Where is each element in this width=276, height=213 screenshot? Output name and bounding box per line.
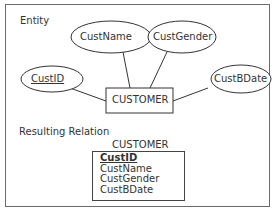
relation-section-label: Resulting Relation <box>19 126 109 137</box>
attribute-custbdate: CustBDate <box>214 73 267 84</box>
entity-name: CUSTOMER <box>112 94 169 105</box>
relation-table: CustID CustName CustGender CustBDate <box>92 151 185 201</box>
relation-field: CustGender <box>100 174 184 185</box>
relation-name: CUSTOMER <box>112 139 169 150</box>
connector-custbdate <box>173 88 208 101</box>
connector-custid <box>70 88 106 101</box>
connector-custgender <box>150 52 167 88</box>
attribute-custgender: CustGender <box>153 31 212 42</box>
entity-section-label: Entity <box>20 15 49 26</box>
relation-field: CustBDate <box>100 185 184 196</box>
relation-field-primary-key: CustID <box>100 153 184 164</box>
attribute-custid-key: CustID <box>31 73 64 84</box>
attribute-custname: CustName <box>80 31 132 42</box>
connector-custname <box>123 52 130 88</box>
